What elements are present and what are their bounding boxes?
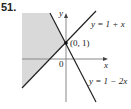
shaded-region	[22, 13, 66, 88]
y-axis-label: y	[59, 8, 63, 18]
intersection-point	[64, 41, 68, 45]
x-axis-label: x	[104, 60, 108, 70]
origin-label: 0	[59, 59, 64, 69]
y-axis-arrow-icon	[64, 13, 68, 18]
point-label: (0, 1)	[70, 38, 90, 48]
line-label-2: y = 1 − 2x	[89, 76, 127, 86]
graph	[0, 0, 131, 109]
line-label-1: y = 1 + x	[91, 19, 125, 29]
line-y-1-minus-2x	[50, 13, 96, 102]
